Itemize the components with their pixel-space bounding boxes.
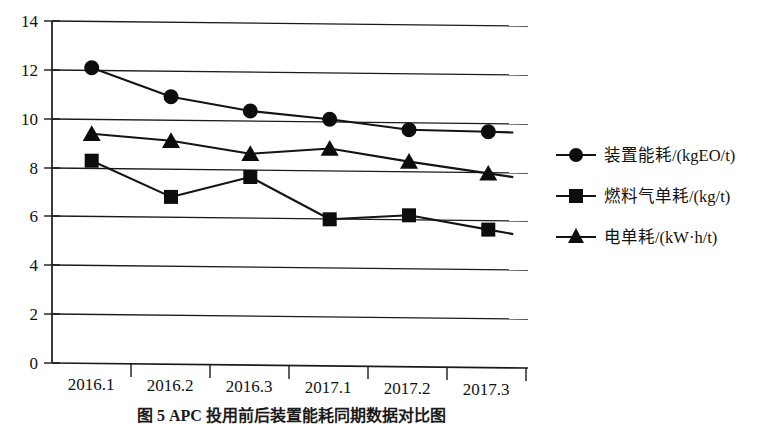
- ytick-label: 8: [30, 159, 39, 178]
- square-data-point: [85, 154, 99, 168]
- triangle-data-point: [321, 140, 339, 156]
- circle-data-point: [481, 124, 496, 139]
- ytick-label: 6: [30, 207, 39, 226]
- circle-data-point: [402, 122, 417, 137]
- circle-marker-icon: [569, 148, 583, 162]
- legend-label: 装置能耗/(kgEO/t): [604, 146, 735, 165]
- ytick-label: 4: [30, 256, 39, 275]
- circle-data-point: [243, 104, 258, 119]
- legend-item-0[interactable]: 装置能耗/(kgEO/t): [556, 146, 735, 165]
- square-data-point: [481, 223, 495, 237]
- ytick-label: 0: [30, 354, 39, 373]
- gridline-12: [52, 70, 528, 75]
- figure-caption: 图 5 APC 投用前后装置能耗同期数据对比图: [137, 406, 446, 424]
- square-data-point: [243, 170, 257, 184]
- legend: 装置能耗/(kgEO/t) 燃料气单耗/(kg/t) 电单耗/(kW·h/t): [556, 146, 735, 247]
- circle-data-point: [322, 112, 337, 127]
- ytick-label: 10: [21, 110, 38, 129]
- circle-data-point: [84, 60, 99, 75]
- y-axis-tick-labels: 14 12 10 8 6 4 2 0: [21, 12, 39, 373]
- legend-item-1[interactable]: 燃料气单耗/(kg/t): [556, 187, 730, 206]
- gridline-4: [52, 265, 528, 270]
- square-marker-icon: [569, 189, 583, 203]
- figure-container: 14 12 10 8 6 4 2 0 2016.1 2016.2 2016.3 …: [0, 0, 763, 424]
- x-axis: [52, 363, 528, 368]
- square-data-point: [402, 208, 416, 222]
- gridlines: [52, 21, 528, 319]
- legend-item-2[interactable]: 电单耗/(kW·h/t): [556, 228, 717, 247]
- series-square: [85, 154, 514, 237]
- gridline-6: [52, 216, 528, 221]
- gridline-14: [52, 21, 528, 26]
- legend-label: 电单耗/(kW·h/t): [604, 228, 717, 247]
- xtick-label: 2017.1: [305, 378, 352, 397]
- triangle-data-point: [83, 125, 101, 141]
- square-data-point: [323, 212, 337, 226]
- ytick-label: 12: [21, 61, 38, 80]
- xtick-label: 2016.2: [147, 376, 194, 395]
- gridline-2: [52, 314, 528, 319]
- gridline-10: [52, 119, 528, 124]
- ytick-label: 14: [21, 12, 39, 31]
- series-layer: [83, 60, 514, 236]
- triangle-marker-icon: [568, 228, 584, 243]
- xtick-label: 2016.3: [226, 377, 273, 396]
- xtick-label: 2017.3: [463, 380, 510, 399]
- circle-data-point: [164, 89, 179, 104]
- xtick-label: 2017.2: [384, 379, 431, 398]
- xtick-label: 2016.1: [68, 375, 115, 394]
- line-chart: 14 12 10 8 6 4 2 0 2016.1 2016.2 2016.3 …: [0, 0, 763, 424]
- square-data-point: [164, 190, 178, 204]
- ytick-label: 2: [30, 305, 39, 324]
- legend-label: 燃料气单耗/(kg/t): [604, 187, 730, 206]
